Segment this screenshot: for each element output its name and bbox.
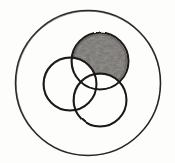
venn-diagram — [0, 0, 175, 163]
figure-canvas: Three overlapping circles inside an oute… — [0, 0, 175, 163]
